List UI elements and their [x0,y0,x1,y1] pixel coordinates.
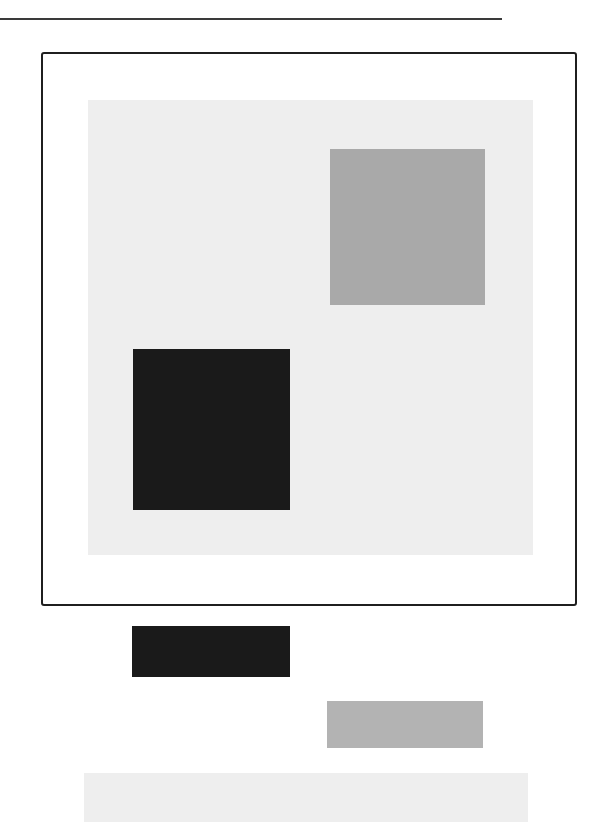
black-bar-swatch [132,626,290,677]
light-gray-bar-swatch [84,773,528,822]
black-square [133,349,290,510]
gray-square [330,149,485,305]
gray-bar-swatch [327,701,483,748]
top-horizontal-rule [0,18,502,20]
